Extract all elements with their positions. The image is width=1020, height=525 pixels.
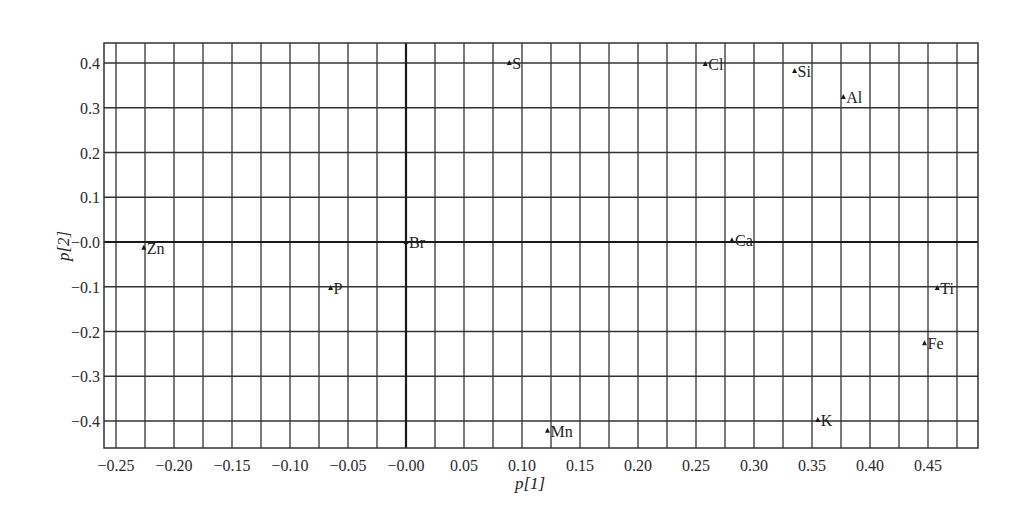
point-label: Br	[409, 234, 426, 251]
y-tick-label: 0.4	[80, 55, 100, 72]
triangle-marker-icon	[935, 285, 940, 290]
triangle-marker-icon	[815, 417, 820, 422]
point-label: Mn	[551, 423, 573, 440]
data-point-al: Al	[841, 89, 863, 106]
data-point-s: S	[507, 55, 521, 72]
x-tick-label: −0.15	[213, 457, 250, 474]
point-label: S	[512, 55, 521, 72]
scatter-chart: −0.25−0.20−0.15−0.10−0.05−0.000.050.100.…	[0, 0, 1020, 525]
x-tick-label: 0.45	[914, 457, 942, 474]
triangle-marker-icon	[922, 340, 927, 345]
point-label: Ti	[940, 280, 954, 297]
x-tick-label: −0.10	[271, 457, 308, 474]
y-tick-label: 0.3	[80, 100, 100, 117]
y-tick-label: −0.1	[71, 279, 100, 296]
y-tick-label: −0.4	[71, 413, 100, 430]
point-label: Fe	[928, 335, 944, 352]
x-tick-label: 0.05	[450, 457, 478, 474]
point-label: P	[334, 280, 343, 297]
x-tick-label: 0.25	[682, 457, 710, 474]
x-tick-label: −0.05	[329, 457, 366, 474]
y-axis-ticks: 0.40.30.20.1−0.0−0.1−0.2−0.3−0.4	[71, 55, 100, 430]
point-label: Zn	[147, 240, 165, 257]
point-label: Ca	[735, 232, 753, 249]
triangle-marker-icon	[545, 428, 550, 433]
data-point-p: P	[328, 280, 343, 297]
x-axis-label: p[1]	[514, 474, 545, 493]
data-point-si: Si	[792, 63, 811, 80]
data-point-ti: Ti	[935, 280, 955, 297]
data-point-cl: Cl	[703, 56, 724, 73]
y-tick-label: 0.1	[80, 189, 100, 206]
y-tick-label: −0.0	[71, 234, 100, 251]
data-point-fe: Fe	[922, 335, 944, 352]
point-label: Cl	[708, 56, 724, 73]
x-tick-label: 0.10	[508, 457, 536, 474]
point-label: K	[821, 412, 833, 429]
data-point-mn: Mn	[545, 423, 573, 440]
y-tick-label: −0.2	[71, 324, 100, 341]
triangle-marker-icon	[792, 68, 797, 73]
y-tick-label: 0.2	[80, 145, 100, 162]
data-point-ca: Ca	[729, 232, 752, 249]
data-point-k: K	[815, 412, 833, 429]
point-label: Al	[846, 89, 863, 106]
x-tick-label: 0.15	[566, 457, 594, 474]
x-tick-label: 0.30	[740, 457, 768, 474]
y-tick-label: −0.3	[71, 368, 100, 385]
x-tick-label: 0.20	[624, 457, 652, 474]
triangle-marker-icon	[328, 285, 333, 290]
x-tick-label: 0.40	[856, 457, 884, 474]
data-points: ZnPBrSClSiAlCaTiFeKMn	[141, 55, 954, 440]
x-tick-label: −0.20	[155, 457, 192, 474]
x-tick-label: −0.00	[387, 457, 424, 474]
x-axis-ticks: −0.25−0.20−0.15−0.10−0.05−0.000.050.100.…	[97, 457, 942, 474]
x-tick-label: 0.35	[798, 457, 826, 474]
y-axis-label: p[2]	[54, 231, 73, 262]
triangle-marker-icon	[729, 237, 734, 242]
point-label: Si	[798, 63, 812, 80]
x-tick-label: −0.25	[97, 457, 134, 474]
